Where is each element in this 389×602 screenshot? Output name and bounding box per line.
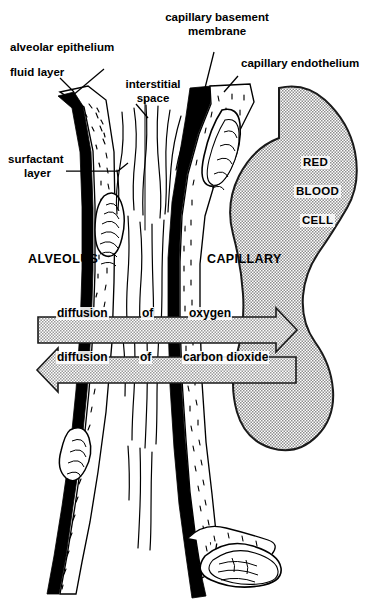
diagram-page: alveolar epithelium fluid layer surfacta…	[0, 0, 389, 602]
label-alveolar-epithelium: alveolar epithelium	[10, 41, 114, 54]
arrow-label-co2-part1: diffusion	[56, 351, 109, 364]
label-rbc-line2: BLOOD	[294, 185, 341, 198]
arrow-label-co2-part3: carbon dioxide	[182, 351, 269, 364]
label-capillary-endothelium: capillary endothelium	[241, 57, 359, 70]
label-alveolus: ALVEOLUS	[28, 252, 98, 266]
arrow-label-oxygen-part1: diffusion	[56, 307, 109, 320]
arrow-label-oxygen-part2: of	[141, 307, 154, 320]
label-rbc-line3: CELL	[300, 214, 335, 227]
label-interstitial-space-line1: interstitial	[116, 78, 190, 91]
label-capillary-basement-membrane-line1: capillary basement	[152, 11, 282, 24]
label-surfactant-layer-line1: surfactant	[8, 153, 64, 166]
arrow-label-co2-part2: of	[139, 351, 152, 364]
arrow-label-oxygen-part3: oxygen	[188, 307, 232, 320]
label-fluid-layer: fluid layer	[10, 66, 64, 79]
label-rbc-line1: RED	[301, 156, 330, 169]
respiratory-membrane-figure	[0, 0, 389, 602]
label-interstitial-space-line2: space	[116, 92, 190, 105]
label-capillary-basement-membrane-line2: membrane	[152, 25, 282, 38]
label-surfactant-layer-line2: layer	[24, 167, 51, 180]
label-capillary: CAPILLARY	[207, 252, 282, 266]
red-blood-cell	[230, 87, 357, 451]
